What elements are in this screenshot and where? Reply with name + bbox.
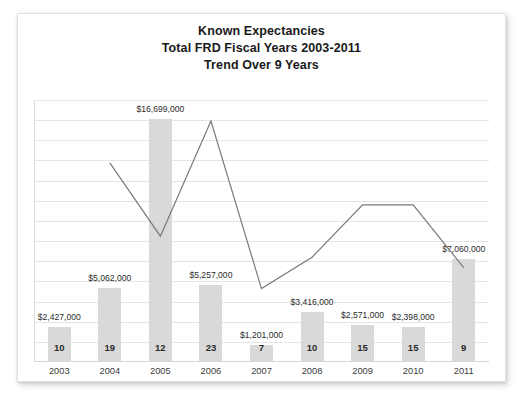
plot-area: 1019122371015159 $2,427,000$5,062,000$16… [34,100,489,362]
title-line-1: Known Expectancies [18,23,505,40]
trend-line [110,121,464,289]
x-axis-label: 2011 [434,366,494,376]
x-axis-labels: 200320042005200620072008200920102011 [34,366,489,386]
chart-card: Known Expectancies Total FRD Fiscal Year… [17,13,506,382]
title-line-2: Total FRD Fiscal Years 2003-2011 [18,40,505,57]
line-series [34,100,489,362]
chart-title: Known Expectancies Total FRD Fiscal Year… [18,23,505,74]
title-line-3: Trend Over 9 Years [18,57,505,74]
